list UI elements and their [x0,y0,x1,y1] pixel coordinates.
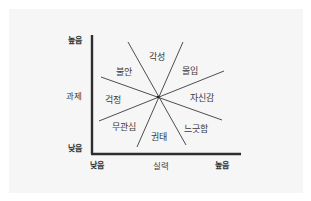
y-axis-low-label: 낮음 [68,142,81,153]
region-label-apathy: 무관심 [112,120,135,133]
region-label-relaxation: 느긋함 [184,122,207,135]
region-label-worry: 걱정 [105,93,120,106]
x-axis-high-label: 높음 [215,159,228,170]
region-label-anxiety: 불안 [116,65,131,78]
x-axis-low-label: 낮음 [90,159,103,170]
region-label-boredom: 권태 [151,130,166,143]
region-label-control: 자신감 [190,91,213,104]
y-axis-title: 과제 [66,89,81,101]
center-point [157,96,160,99]
y-axis-high-label: 높음 [68,34,81,45]
x-axis-title: 실력 [153,159,168,171]
region-label-arousal: 각성 [149,50,164,63]
region-label-flow: 몰입 [182,64,197,77]
